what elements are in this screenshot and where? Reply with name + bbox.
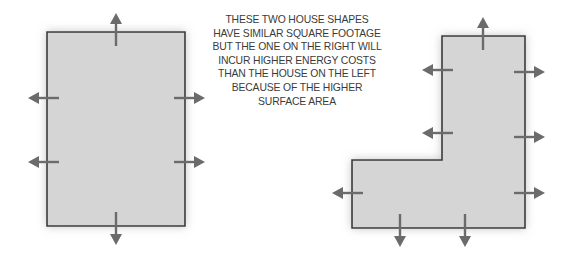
caption-line-7: SURFACE AREA bbox=[197, 95, 397, 109]
caption-line-6: BECAUSE OF THE HIGHER bbox=[197, 81, 397, 95]
caption-line-5: THAN THE HOUSE ON THE LEFT bbox=[197, 67, 397, 81]
caption-text-block: THESE TWO HOUSE SHAPES HAVE SIMILAR SQUA… bbox=[197, 13, 397, 108]
caption-line-2: HAVE SIMILAR SQUARE FOOTAGE bbox=[197, 27, 397, 41]
rectangular-house-shape bbox=[47, 32, 185, 226]
diagram-canvas: THESE TWO HOUSE SHAPES HAVE SIMILAR SQUA… bbox=[0, 0, 571, 262]
caption-line-1: THESE TWO HOUSE SHAPES bbox=[197, 13, 397, 27]
caption-line-4: INCUR HIGHER ENERGY COSTS bbox=[197, 54, 397, 68]
caption-line-3: BUT THE ONE ON THE RIGHT WILL bbox=[197, 40, 397, 54]
